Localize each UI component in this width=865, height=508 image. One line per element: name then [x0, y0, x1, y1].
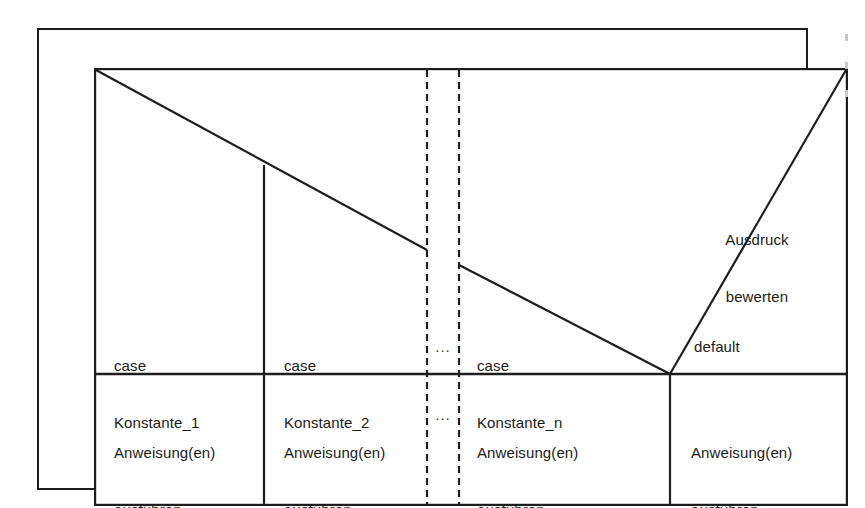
decision-label-line2: bewerten	[677, 287, 837, 306]
margin-artifact-mark	[845, 34, 848, 41]
case-label-2-line1: case	[284, 356, 369, 375]
statement-row-ellipsis: ...	[427, 405, 459, 424]
figure-outer-border: Ausdruck bewerten case Konstante_1 case …	[37, 28, 808, 490]
margin-artifact-mark	[845, 90, 848, 97]
statement-block-default: Anweisung(en) ausführen break;	[691, 405, 792, 508]
page-canvas: Ausdruck bewerten case Konstante_1 case …	[0, 0, 865, 508]
statement-block-2: Anweisung(en) ausführen break;	[284, 405, 385, 508]
decision-label: Ausdruck bewerten	[677, 192, 837, 344]
page-margin-artifacts	[845, 34, 865, 134]
statement-block-1: Anweisung(en) ausführen break;	[114, 405, 215, 508]
case-row-ellipsis: ...	[427, 337, 459, 356]
decision-label-line1: Ausdruck	[677, 230, 837, 249]
statement-block-default-line2: ausführen	[691, 500, 792, 508]
case-label-3-line1: case	[477, 356, 562, 375]
statement-block-3-line1: Anweisung(en)	[477, 443, 578, 462]
statement-block-default-line1: Anweisung(en)	[691, 443, 792, 462]
margin-artifact-mark	[845, 62, 848, 69]
statement-block-3-line2: ausführen	[477, 500, 578, 508]
statement-block-1-line2: ausführen	[114, 500, 215, 508]
case-label-1-line1: case	[114, 356, 199, 375]
statement-block-3: Anweisung(en) ausführen break;	[477, 405, 578, 508]
statement-block-2-line1: Anweisung(en)	[284, 443, 385, 462]
case-label-default: default	[694, 337, 740, 356]
statement-block-1-line1: Anweisung(en)	[114, 443, 215, 462]
statement-block-2-line2: ausführen	[284, 500, 385, 508]
struktogramm-diagram: Ausdruck bewerten case Konstante_1 case …	[94, 68, 848, 506]
